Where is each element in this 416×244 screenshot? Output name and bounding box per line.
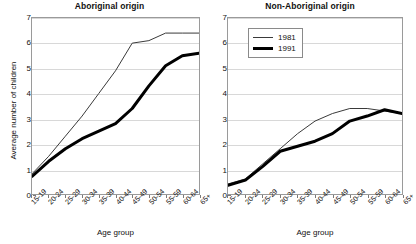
y-tick-label: 4 xyxy=(201,89,227,98)
legend-label-1981: 1981 xyxy=(278,33,296,42)
y-tick-label: 0 xyxy=(5,191,31,200)
y-tick-label: 1 xyxy=(5,165,31,174)
chart-panel-non-aboriginal: Non-Aboriginal origin 01234567 1981 1991… xyxy=(205,0,409,244)
y-tick-label: 2 xyxy=(5,140,31,149)
y-tick-label: 5 xyxy=(201,63,227,72)
panel-title-left: Aboriginal origin xyxy=(0,1,205,11)
plot-area-right: 1981 1991 xyxy=(227,17,403,195)
legend-swatch-1981 xyxy=(253,37,273,38)
legend: 1981 1991 xyxy=(248,28,303,58)
chart-panel-aboriginal: Aboriginal origin Average number of chil… xyxy=(0,0,205,244)
series-line-1981 xyxy=(32,33,199,174)
series-lines-left xyxy=(32,18,199,194)
y-tick-label: 7 xyxy=(5,13,31,22)
y-tick-label: 6 xyxy=(201,38,227,47)
y-axis-left: 01234567 xyxy=(5,17,31,195)
y-tick-label: 3 xyxy=(201,114,227,123)
y-tick-label: 0 xyxy=(201,191,227,200)
legend-swatch-1991 xyxy=(253,47,273,50)
y-tick-label: 6 xyxy=(5,38,31,47)
plot-area-left xyxy=(31,17,200,195)
y-tick-label: 4 xyxy=(5,89,31,98)
x-axis-title-left: Age group xyxy=(31,228,200,237)
panel-title-right: Non-Aboriginal origin xyxy=(205,1,409,11)
y-tick-label: 1 xyxy=(201,165,227,174)
y-tick-label: 7 xyxy=(201,13,227,22)
x-axis-labels-left: 15-1920-2425-2930-3435-3940-4445-4950-54… xyxy=(31,200,200,230)
series-line-1991 xyxy=(32,53,199,176)
legend-item-1981: 1981 xyxy=(253,32,296,43)
legend-item-1991: 1991 xyxy=(253,43,296,54)
y-axis-right: 01234567 xyxy=(201,17,227,195)
legend-label-1991: 1991 xyxy=(278,44,296,53)
x-axis-title-right: Age group xyxy=(227,228,403,237)
x-axis-labels-right: 15-1920-2425-2930-3435-3940-4445-4950-54… xyxy=(227,200,403,230)
y-tick-label: 2 xyxy=(201,140,227,149)
y-tick-label: 5 xyxy=(5,63,31,72)
x-tick-label: 65+ xyxy=(401,191,416,206)
y-tick-label: 3 xyxy=(5,114,31,123)
